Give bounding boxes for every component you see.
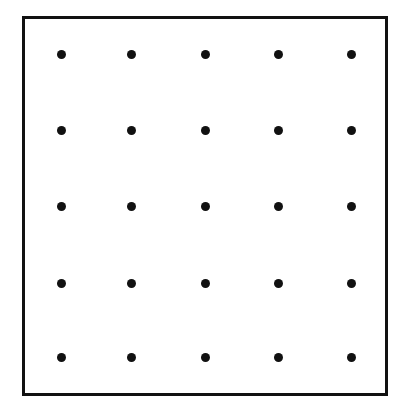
grid-dot bbox=[201, 279, 210, 288]
grid-dot bbox=[127, 279, 136, 288]
grid-dot bbox=[274, 126, 283, 135]
grid-dot bbox=[347, 202, 356, 211]
grid-dot bbox=[347, 353, 356, 362]
grid-dot bbox=[127, 50, 136, 59]
grid-dot bbox=[127, 202, 136, 211]
grid-dot bbox=[347, 50, 356, 59]
grid-dot bbox=[201, 202, 210, 211]
grid-dot bbox=[57, 279, 66, 288]
grid-dot bbox=[57, 353, 66, 362]
grid-dot bbox=[57, 202, 66, 211]
grid-dot bbox=[201, 353, 210, 362]
grid-dot bbox=[274, 50, 283, 59]
grid-dot bbox=[274, 202, 283, 211]
grid-dot bbox=[274, 279, 283, 288]
grid-dot bbox=[127, 126, 136, 135]
grid-dot bbox=[201, 126, 210, 135]
grid-dot bbox=[274, 353, 283, 362]
grid-dot bbox=[57, 50, 66, 59]
grid-dot bbox=[127, 353, 136, 362]
grid-dot bbox=[57, 126, 66, 135]
grid-dot bbox=[347, 279, 356, 288]
grid-dot bbox=[201, 50, 210, 59]
grid-dot bbox=[347, 126, 356, 135]
